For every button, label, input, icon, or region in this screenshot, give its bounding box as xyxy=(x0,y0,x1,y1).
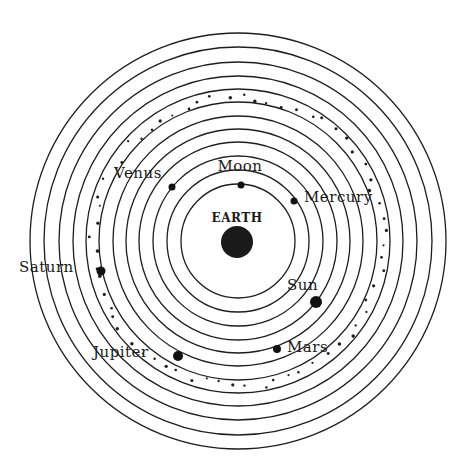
star-mark-icon xyxy=(365,311,367,313)
star-mark-icon xyxy=(372,284,375,287)
star-mark-icon xyxy=(253,100,256,103)
star-mark-icon xyxy=(231,383,234,386)
body-sun: Sun xyxy=(287,276,322,308)
star-mark-icon xyxy=(217,380,219,382)
star-mark-icon xyxy=(229,96,232,99)
sun-dot-icon xyxy=(310,296,322,308)
moon-dot-icon xyxy=(238,182,245,189)
geocentric-diagram: EARTH MoonVenusMercurySaturnSunJupiterMa… xyxy=(0,0,464,475)
star-mark-icon xyxy=(99,205,101,207)
star-mark-icon xyxy=(382,244,384,246)
star-mark-icon xyxy=(265,386,267,388)
star-mark-icon xyxy=(140,137,142,139)
star-mark-icon xyxy=(382,269,385,272)
star-mark-icon xyxy=(280,106,283,109)
jupiter-label: Jupiter xyxy=(91,343,149,361)
star-mark-icon xyxy=(272,379,275,382)
star-mark-icon xyxy=(88,235,91,238)
earth: EARTH xyxy=(212,211,263,258)
body-venus: Venus xyxy=(113,164,176,191)
star-mark-icon xyxy=(116,327,119,330)
star-mark-icon xyxy=(295,108,298,111)
star-mark-icon xyxy=(190,379,193,382)
star-mark-icon xyxy=(320,116,323,119)
saturn-dot-icon xyxy=(97,267,106,276)
star-mark-icon xyxy=(174,369,177,372)
star-mark-icon xyxy=(297,371,299,373)
moon-label: Moon xyxy=(217,157,262,175)
star-mark-icon xyxy=(153,358,155,360)
star-mark-icon xyxy=(312,115,315,118)
mars-dot-icon xyxy=(273,345,281,353)
star-mark-icon xyxy=(206,377,208,379)
star-mark-icon xyxy=(188,108,191,111)
star-mark-icon xyxy=(243,93,245,95)
star-mark-icon xyxy=(96,249,100,253)
star-mark-icon xyxy=(243,384,245,386)
mars-label: Mars xyxy=(287,338,328,356)
star-mark-icon xyxy=(102,178,104,180)
venus-label: Venus xyxy=(113,164,162,182)
star-mark-icon xyxy=(171,115,173,117)
star-mark-icon xyxy=(334,127,337,130)
earth-label: EARTH xyxy=(212,211,263,225)
star-mark-icon xyxy=(385,229,388,232)
star-mark-icon xyxy=(351,334,355,338)
star-mark-icon xyxy=(110,307,113,310)
star-mark-icon xyxy=(151,128,154,131)
star-mark-icon xyxy=(103,293,106,296)
saturn-label: Saturn xyxy=(19,258,74,276)
star-mark-icon xyxy=(265,102,267,104)
star-mark-icon xyxy=(380,256,383,259)
venus-dot-icon xyxy=(169,184,176,191)
jupiter-dot-icon xyxy=(173,351,183,361)
star-mark-icon xyxy=(383,217,386,220)
star-mark-icon xyxy=(111,315,114,318)
star-mark-icon xyxy=(364,163,367,166)
body-moon: Moon xyxy=(217,157,262,189)
star-mark-icon xyxy=(159,119,162,122)
mercury-label: Mercury xyxy=(304,188,373,206)
star-mark-icon xyxy=(345,136,348,139)
star-mark-icon xyxy=(165,365,168,368)
mercury-dot-icon xyxy=(291,198,298,205)
star-mark-icon xyxy=(287,374,289,376)
star-mark-icon xyxy=(378,202,381,205)
body-mars: Mars xyxy=(273,338,328,356)
sun-label: Sun xyxy=(287,276,318,294)
star-mark-icon xyxy=(208,95,211,98)
body-mercury: Mercury xyxy=(291,188,373,206)
star-mark-icon xyxy=(196,101,199,104)
star-mark-icon xyxy=(127,140,129,142)
star-mark-icon xyxy=(96,222,99,225)
star-mark-icon xyxy=(364,299,367,302)
star-mark-icon xyxy=(351,150,354,153)
body-saturn: Saturn xyxy=(19,258,106,276)
star-mark-icon xyxy=(311,362,313,364)
star-mark-icon xyxy=(369,178,372,181)
star-mark-icon xyxy=(355,324,357,326)
star-mark-icon xyxy=(96,195,99,198)
star-mark-icon xyxy=(338,342,342,346)
earth-globe-icon xyxy=(221,226,253,258)
